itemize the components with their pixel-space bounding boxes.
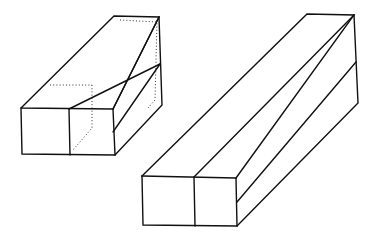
right-block-right-side <box>237 15 358 226</box>
left-block-right-top-edge <box>113 17 159 109</box>
right-block-top-outline <box>142 14 354 178</box>
left-block <box>21 16 162 155</box>
right-block <box>142 14 358 226</box>
right-block-side-seam <box>237 62 356 202</box>
left-block-hidden-edge-vertical <box>73 85 92 150</box>
left-block-side-seam <box>113 64 160 132</box>
blocks-diagram <box>0 0 369 241</box>
right-block-top-divider <box>194 15 354 177</box>
left-block-top-divider <box>69 64 160 109</box>
right-block-front-face <box>142 176 237 226</box>
left-block-front-divider <box>69 109 70 155</box>
left-block-right-side <box>115 17 162 155</box>
left-block-front-face <box>21 108 115 155</box>
right-block-top-front-edge <box>142 176 236 178</box>
right-block-front-divider <box>194 177 195 226</box>
